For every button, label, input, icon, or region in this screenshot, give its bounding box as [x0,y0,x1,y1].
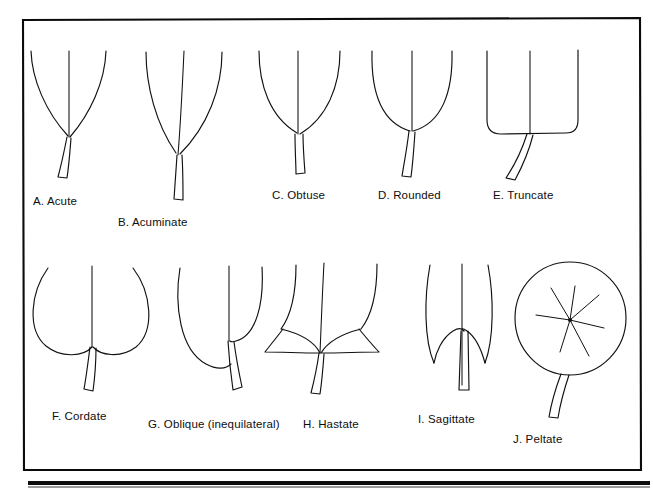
leaf-label-acute: A. Acute [33,196,77,208]
leaf-cordate-petiole [84,347,96,391]
leaf-peltate-vein-2 [570,286,575,320]
leaf-rounded [372,51,452,177]
leaf-oblique-petiole [228,341,242,390]
leaf-acuminate-left-margin [146,52,176,153]
leaf-label-rounded: D. Rounded [378,190,441,202]
leaf-label-acuminate: B. Acuminate [118,217,188,229]
leaf-truncate-margin [487,50,578,134]
leaf-peltate-vein-7 [536,315,570,320]
leaf-hastate [265,263,379,394]
horizontal-rule-thick [28,481,650,485]
leaf-oblique [178,266,262,390]
leaf-label-truncate: E. Truncate [493,190,553,202]
leaf-sagittate-left-sinus [434,329,464,363]
leaf-acute-right-margin [70,51,106,137]
leaf-rounded-right-margin [413,51,452,131]
leaf-peltate-vein-6 [560,320,570,352]
leaf-sagittate-right-margin [485,265,492,363]
leaf-peltate [515,262,626,418]
leaf-peltate-vein-5 [570,320,589,356]
leaf-cordate [33,266,149,391]
leaf-rounded-left-margin [372,51,410,131]
leaf-acuminate-right-margin [180,52,222,154]
leaf-oblique-right-margin [230,267,262,342]
leaf-sagittate-right-sinus [462,329,485,363]
leaf-rounded-petiole [402,131,415,177]
leaf-obtuse-petiole [295,134,305,174]
leaf-cordate-left-lobe [33,268,92,355]
leaf-peltate-petiole [549,374,569,418]
leaf-acute-left-margin [31,51,68,136]
leaf-acuminate [146,51,222,200]
leaf-base-figure: A. Acute B. Acuminate C. Obtuse D. Round… [0,0,653,494]
leaf-label-hastate: H. Hastate [303,419,359,431]
leaf-label-obtuse: C. Obtuse [272,190,325,202]
leaf-peltate-vein-3 [570,295,599,320]
leaf-peltate-vein-1 [551,288,570,320]
horizontal-rule-thin [28,486,650,488]
leaf-oblique-left-margin [178,268,231,368]
leaf-label-cordate: F. Cordate [52,411,107,423]
leaf-sagittate [426,264,492,390]
leaf-acute-petiole [58,137,71,178]
leaf-label-sagittate: I. Sagittate [418,414,475,426]
leaf-acuminate-midrib [178,51,184,155]
leaf-sagittate-petiole [459,331,469,390]
leaf-hastate-petiole [311,353,324,394]
leaf-acute [31,51,106,178]
leaf-hastate-midrib [320,263,324,353]
leaf-obtuse-right-margin [300,51,340,134]
leaf-truncate-petiole [506,134,533,180]
leaf-hastate-left-margin [281,265,320,353]
leaf-obtuse-left-margin [259,51,297,133]
leaf-obtuse [259,51,340,174]
leaf-peltate-vein-4 [570,320,604,328]
leaf-acuminate-petiole [174,155,183,200]
leaf-truncate [487,50,578,180]
leaf-cordate-right-lobe [93,268,149,355]
figure-border [23,18,641,470]
leaf-label-oblique: G. Oblique (inequilateral) [148,419,280,431]
leaf-label-peltate: J. Peltate [513,434,562,446]
leaf-sagittate-left-margin [426,265,434,363]
